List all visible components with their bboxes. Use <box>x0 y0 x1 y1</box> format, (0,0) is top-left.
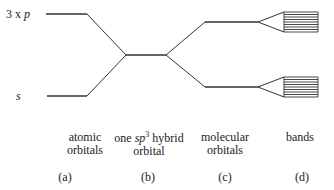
energy-level-lines <box>0 0 334 190</box>
p-level-label: 3 x p <box>6 7 30 22</box>
tag-c: (c) <box>210 171 240 184</box>
column-c-line2: orbitals <box>185 144 265 157</box>
column-b-label: one sp3 hybrid orbital <box>104 128 194 158</box>
diagram-canvas: 3 x p s atomic orbitals one sp3 hybrid o… <box>0 0 334 190</box>
column-c-label: molecular orbitals <box>185 131 265 157</box>
column-b-post: hybrid <box>149 131 183 145</box>
upper-band <box>284 12 318 32</box>
column-b-line2: orbital <box>104 145 194 158</box>
lower-band <box>284 77 318 97</box>
p-prefix: 3 x <box>6 7 24 21</box>
tag-d: (d) <box>287 171 317 184</box>
column-b-line1: one sp3 hybrid <box>104 128 194 145</box>
column-d-label: bands <box>275 131 325 144</box>
column-b-sym: sp <box>135 131 146 145</box>
tag-b: (b) <box>133 171 163 184</box>
p-symbol: p <box>24 7 30 21</box>
column-d-line1: bands <box>275 131 325 144</box>
s-level-label: s <box>16 89 21 104</box>
column-b-pre: one <box>114 131 134 145</box>
tag-a: (a) <box>50 171 80 184</box>
